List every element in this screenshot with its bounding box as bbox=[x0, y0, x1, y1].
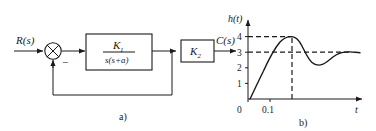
input-label: R(s) bbox=[15, 34, 35, 47]
y-axis-label: h(t) bbox=[228, 13, 243, 25]
plant-denominator: s(s+a) bbox=[105, 55, 129, 65]
y-tick-label-2: 2 bbox=[237, 63, 242, 73]
gain-label-subscript: 2 bbox=[198, 52, 202, 60]
y-tick-label-4: 4 bbox=[237, 32, 242, 42]
y-tick-label-0: 0 bbox=[237, 105, 242, 115]
plant-numerator-subscript: 1 bbox=[120, 46, 124, 54]
output-label: C(s) bbox=[216, 34, 235, 47]
x-tick-label-peak: 0.1 bbox=[262, 105, 274, 115]
negative-sign-label: − bbox=[62, 56, 68, 68]
control-system-figure: R(s) − K 1 s(s+a) K 2 C(s) a) h(t) t 4 3… bbox=[0, 0, 376, 131]
y-tick-label-1: 1 bbox=[237, 79, 242, 89]
panel-b-caption: b) bbox=[299, 117, 307, 129]
panel-a-caption: a) bbox=[119, 111, 127, 123]
x-axis-label: t bbox=[355, 104, 358, 115]
label-layer: R(s) − K 1 s(s+a) K 2 C(s) a) h(t) t 4 3… bbox=[0, 0, 376, 131]
y-tick-label-3: 3 bbox=[237, 48, 242, 58]
